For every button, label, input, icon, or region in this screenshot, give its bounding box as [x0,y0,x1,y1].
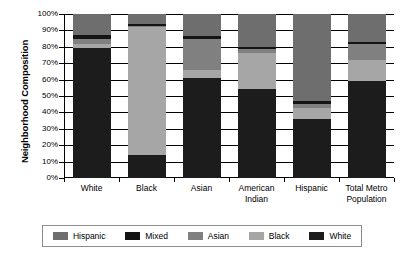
x-axis-label-line: Asian [174,183,229,194]
bar-segment-white[interactable] [73,48,111,178]
bar-slot [284,14,339,178]
legend-item-black[interactable]: Black [249,232,290,241]
legend-label: Mixed [145,232,168,241]
y-axis-tick-label: 10% [18,158,58,166]
bar-segment-white[interactable] [238,89,276,178]
stacked-bar[interactable] [293,14,331,178]
bar-segment-black[interactable] [183,70,221,78]
stacked-bar[interactable] [238,14,276,178]
bars-layer [64,14,394,178]
x-axis-tick-marks [64,178,394,182]
bar-segment-white[interactable] [348,81,386,178]
x-axis-label: Asian [174,183,229,194]
bar-segment-black[interactable] [128,27,166,155]
bar-slot [339,14,394,178]
x-axis-labels: WhiteBlackAsianAmericanIndianHispanicTot… [64,183,394,213]
stacked-bar[interactable] [128,14,166,178]
bar-segment-hispanic[interactable] [128,14,166,24]
legend: HispanicMixedAsianBlackWhite [42,225,362,247]
x-axis-tick-mark [339,178,340,182]
y-axis-tick-label: 0% [18,174,58,182]
legend-swatch-icon [125,232,140,240]
bar-segment-white[interactable] [128,155,166,178]
x-axis-tick-mark [394,178,395,182]
x-axis-tick-mark [119,178,120,182]
legend-swatch-icon [53,232,68,240]
legend-swatch-icon [309,232,324,240]
bar-segment-white[interactable] [183,78,221,178]
bar-segment-asian[interactable] [183,39,221,70]
bar-segment-hispanic[interactable] [293,14,331,101]
legend-label: Asian [208,232,229,241]
bar-segment-black[interactable] [238,53,276,89]
bar-segment-hispanic[interactable] [348,14,386,42]
x-axis-label: White [64,183,119,194]
stacked-bar-chart: Neighborhood Composition 100%90%80%70%60… [0,0,404,257]
bar-slot [64,14,119,178]
x-axis-label-line: Total Metro [339,183,394,194]
y-axis-tick-label: 90% [18,26,58,34]
y-axis-tick-label: 40% [18,108,58,116]
y-axis-tick-label: 20% [18,141,58,149]
x-axis-tick-mark [229,178,230,182]
x-axis-label: AmericanIndian [229,183,284,205]
x-axis-label: Hispanic [284,183,339,194]
x-axis-tick-mark [64,178,65,182]
bar-slot [229,14,284,178]
legend-label: Hispanic [73,232,106,241]
bar-segment-hispanic[interactable] [73,14,111,35]
stacked-bar[interactable] [73,14,111,178]
y-axis-tick-label: 100% [18,10,58,18]
bar-segment-hispanic[interactable] [183,14,221,36]
bar-segment-black[interactable] [348,60,386,81]
bar-segment-hispanic[interactable] [238,14,276,47]
stacked-bar[interactable] [183,14,221,178]
x-axis-tick-mark [174,178,175,182]
x-axis-label-line: Hispanic [284,183,339,194]
y-axis-tick-label: 30% [18,125,58,133]
x-axis-label-line: Indian [229,194,284,205]
legend-label: Black [269,232,290,241]
bar-slot [119,14,174,178]
legend-item-white[interactable]: White [309,232,351,241]
legend-item-asian[interactable]: Asian [188,232,229,241]
bar-segment-black[interactable] [293,108,331,119]
legend-label: White [329,232,351,241]
bar-slot [174,14,229,178]
y-axis-tick-label: 50% [18,92,58,100]
x-axis-tick-mark [284,178,285,182]
legend-swatch-icon [188,232,203,240]
y-axis-tick-label: 80% [18,43,58,51]
x-axis-label-line: Population [339,194,394,205]
bar-segment-asian[interactable] [348,44,386,60]
x-axis-label-line: Black [119,183,174,194]
legend-item-hispanic[interactable]: Hispanic [53,232,106,241]
x-axis-label: Black [119,183,174,194]
x-axis-label-line: American [229,183,284,194]
legend-swatch-icon [249,232,264,240]
bar-segment-white[interactable] [293,119,331,178]
legend-item-mixed[interactable]: Mixed [125,232,168,241]
x-axis-label: Total MetroPopulation [339,183,394,205]
stacked-bar[interactable] [348,14,386,178]
y-axis-tick-label: 70% [18,59,58,67]
x-axis-label-line: White [64,183,119,194]
y-axis-tick-label: 60% [18,76,58,84]
